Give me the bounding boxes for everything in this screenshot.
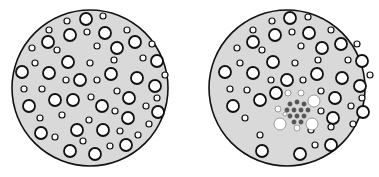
bubble <box>247 36 259 48</box>
faint-bubble <box>275 106 281 112</box>
bubble <box>244 87 250 93</box>
bubble <box>80 13 92 25</box>
dark-dot <box>292 120 296 124</box>
dark-dot <box>292 108 296 112</box>
dark-dot <box>302 114 306 118</box>
bubble <box>329 92 341 104</box>
faint-bubble <box>298 90 304 96</box>
bubble <box>256 145 268 157</box>
bubble <box>284 12 296 24</box>
bubble <box>86 117 92 123</box>
bubble <box>269 18 275 24</box>
bubble <box>32 60 38 66</box>
bubble <box>64 145 76 157</box>
faint-bubble <box>274 118 286 130</box>
bubble <box>367 72 373 78</box>
bubble <box>96 100 108 112</box>
bubble <box>327 112 339 124</box>
dark-dot <box>306 108 310 112</box>
bubble <box>267 56 279 68</box>
bubble <box>67 94 79 106</box>
bubble <box>111 57 117 63</box>
dark-dot <box>295 100 299 104</box>
dark-dot <box>299 108 303 112</box>
bubble <box>87 60 93 66</box>
dark-dot <box>288 114 292 118</box>
bubble <box>63 77 69 83</box>
bubble <box>152 106 164 118</box>
bubble <box>162 72 168 78</box>
bubble <box>42 36 54 48</box>
bubble <box>62 56 74 68</box>
bubble <box>129 36 141 48</box>
bubble <box>294 148 306 160</box>
bubble <box>35 127 47 139</box>
bubble <box>350 121 356 127</box>
bubble <box>59 112 65 118</box>
bubble <box>315 57 321 63</box>
bubble <box>237 60 243 66</box>
bubble <box>316 42 328 54</box>
bubble <box>105 68 117 80</box>
bubble-diagram <box>0 0 379 177</box>
bubble <box>99 27 111 39</box>
bubble <box>74 74 86 86</box>
bubble <box>94 77 100 83</box>
faint-bubble <box>306 118 318 130</box>
bubble <box>52 134 58 140</box>
bubble <box>356 55 368 67</box>
bubble <box>312 142 318 148</box>
bubble <box>80 138 86 144</box>
bubble <box>111 42 123 54</box>
bubble <box>345 57 351 63</box>
bubble <box>146 121 152 127</box>
bubble <box>120 139 132 151</box>
bubble <box>88 94 94 100</box>
faint-bubble <box>294 125 300 131</box>
bubble <box>71 124 83 136</box>
bubble <box>154 95 160 101</box>
bubble <box>357 106 369 118</box>
bubble <box>219 66 231 78</box>
bubble <box>227 86 233 92</box>
bubble <box>259 47 265 53</box>
bubble <box>112 108 118 114</box>
bubble <box>298 43 304 49</box>
dark-dot <box>295 114 299 118</box>
bubble <box>336 72 348 84</box>
bubble <box>135 132 141 138</box>
dark-dot <box>288 102 292 106</box>
dark-dot <box>285 108 289 112</box>
bubble <box>114 88 120 94</box>
bubble <box>117 128 123 134</box>
bubble <box>43 67 55 79</box>
bubble <box>250 27 256 33</box>
bubble <box>311 68 323 80</box>
bubble <box>281 74 293 86</box>
bubble <box>247 67 259 79</box>
bubble <box>29 45 35 51</box>
bubble <box>64 29 76 41</box>
bubble <box>21 86 27 92</box>
bubble <box>268 77 274 83</box>
bubble <box>234 45 240 51</box>
dark-dot <box>299 120 303 124</box>
left-disc <box>12 10 168 166</box>
bubble <box>143 103 149 109</box>
bubble <box>242 115 248 121</box>
bubble <box>257 132 263 138</box>
bubble <box>123 92 135 104</box>
bubble <box>149 80 161 92</box>
bubble <box>49 94 61 106</box>
bubble <box>289 29 295 35</box>
bubble <box>37 115 43 121</box>
bubble <box>354 41 360 47</box>
bubble <box>359 95 365 101</box>
faint-bubble <box>283 112 287 116</box>
bubble <box>16 66 28 78</box>
bubble <box>64 18 70 24</box>
bubble <box>46 27 52 33</box>
bubble <box>354 80 366 92</box>
dark-dot <box>302 102 306 106</box>
bubble <box>227 100 239 112</box>
